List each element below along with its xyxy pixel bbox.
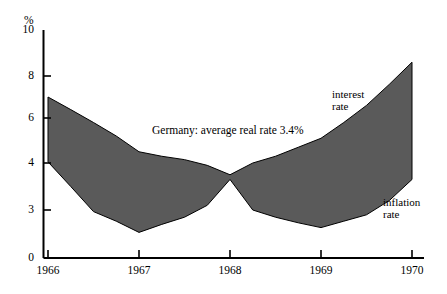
interest-rate-series-label: interest rate [332, 89, 364, 113]
x-tick-label-1970: 1970 [389, 264, 435, 276]
x-tick-label-1968: 1968 [207, 264, 253, 276]
x-tick-label-1966: 1966 [25, 264, 71, 276]
x-tick-label-1967: 1967 [116, 264, 162, 276]
y-tick-label-0: 0 [14, 251, 34, 263]
chart-plot-area [0, 0, 447, 294]
y-tick-label-10: 10 [14, 23, 34, 35]
chart-container: % 0346810 19661967196819691970 Germany: … [0, 0, 447, 294]
inflation-rate-label-line2: rate [383, 209, 420, 221]
inflation-rate-series-label: inflation rate [383, 197, 420, 221]
x-axis-ticks [48, 250, 412, 258]
interest-rate-label-line2: rate [332, 101, 364, 113]
y-tick-label-6: 6 [14, 111, 34, 123]
y-tick-label-4: 4 [14, 156, 34, 168]
y-tick-label-3: 3 [14, 203, 34, 215]
y-tick-label-8: 8 [14, 69, 34, 81]
average-real-rate-annotation: Germany: average real rate 3.4% [152, 124, 304, 136]
x-tick-label-1969: 1969 [298, 264, 344, 276]
